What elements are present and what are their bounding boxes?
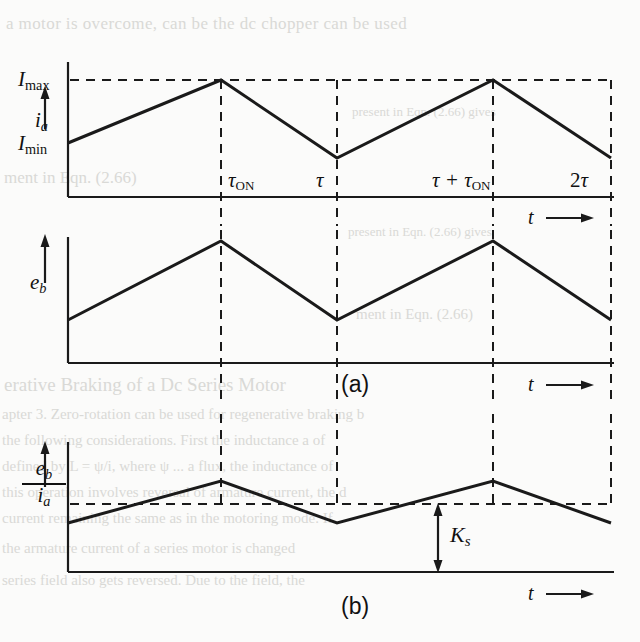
ratio-numerator: eb — [22, 458, 66, 482]
panel1-t-arrow-head — [581, 214, 594, 223]
x-tick-two-tau: 2τ — [570, 168, 588, 193]
ratio-denominator: ia — [22, 485, 66, 509]
back-emf-waveform — [68, 241, 611, 320]
caption-b: (b) — [341, 593, 369, 620]
emf-current-ratio-waveform — [68, 481, 611, 523]
armature-current-waveform — [68, 80, 611, 158]
waveform-figure — [0, 0, 640, 642]
x-tick-tau-plus-tau-on: τ + τON — [432, 168, 491, 194]
emf-current-ratio-axis-label: eb ia — [22, 458, 66, 508]
figure-page: a motor is overcome, can be the dc chopp… — [0, 0, 640, 642]
imax-axis-label: Imax — [18, 67, 50, 94]
panel3-t-axis-label: t — [528, 582, 534, 605]
imin-axis-label: Imin — [18, 131, 47, 158]
panel3-y-arrow-head — [41, 441, 50, 454]
back-emf-axis-label: eb — [30, 270, 46, 297]
panel2-t-arrow-head — [581, 381, 594, 390]
caption-a: (a) — [341, 371, 369, 398]
panel1-t-axis-label: t — [528, 206, 534, 229]
panel2-y-arrow-head — [41, 234, 50, 247]
panel3-t-arrow-head — [581, 590, 594, 599]
x-tick-tau-on: τON — [228, 168, 254, 194]
panel2-t-axis-label: t — [528, 373, 534, 396]
ks-annotation-label: Ks — [450, 522, 471, 550]
x-tick-tau: τ — [316, 168, 324, 193]
